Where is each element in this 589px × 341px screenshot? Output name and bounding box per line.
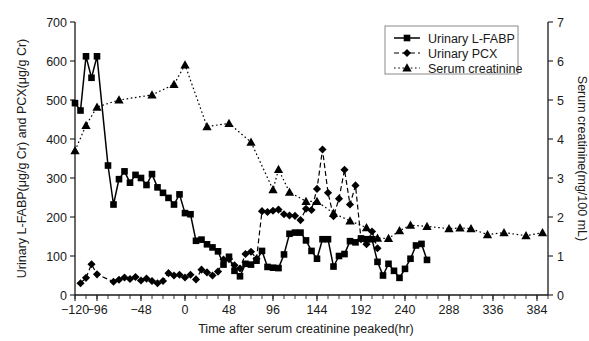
marker-square — [72, 100, 79, 107]
marker-triangle — [406, 221, 415, 229]
right-y-tick-label: 5 — [557, 94, 564, 108]
left-y-tick-label: 200 — [46, 211, 67, 225]
marker-triangle — [345, 216, 354, 224]
marker-square — [385, 261, 392, 268]
left-y-tick-label: 400 — [46, 133, 67, 147]
marker-square — [297, 229, 304, 236]
marker-diamond — [93, 270, 101, 278]
legend-label-1[interactable]: Urinary PCX — [428, 47, 498, 61]
marker-square — [83, 53, 90, 60]
marker-square — [165, 195, 172, 202]
marker-square — [94, 53, 101, 60]
marker-diamond — [192, 275, 200, 283]
marker-triangle — [147, 90, 156, 98]
marker-triangle — [70, 146, 79, 154]
serum-creatinine-timecourse-chart: 010020030040050060070001234567−120−96−48… — [0, 0, 589, 341]
marker-triangle — [362, 223, 371, 231]
marker-square — [149, 171, 156, 178]
marker-triangle — [422, 222, 431, 230]
marker-square — [143, 182, 150, 189]
marker-triangle — [329, 208, 338, 216]
legend[interactable]: Urinary L-FABPUrinary PCXSerum creatinin… — [385, 26, 523, 76]
x-tick-label: 384 — [527, 303, 548, 317]
marker-triangle — [499, 228, 508, 236]
marker-triangle — [285, 187, 294, 195]
marker-square — [275, 265, 282, 272]
marker-triangle — [81, 121, 90, 129]
left-y-tick-label: 600 — [46, 55, 67, 69]
right-y-tick-label: 0 — [557, 289, 564, 303]
marker-square — [116, 176, 123, 183]
marker-diamond — [346, 200, 354, 208]
x-tick-label: 0 — [182, 303, 189, 317]
marker-square — [404, 35, 411, 42]
right-y-tick-label: 7 — [557, 16, 564, 30]
marker-square — [77, 107, 84, 114]
marker-triangle — [455, 223, 464, 231]
marker-square — [259, 248, 266, 255]
figure-container: 010020030040050060070001234567−120−96−48… — [0, 0, 589, 341]
marker-square — [176, 191, 183, 198]
right-y-tick-label: 6 — [557, 55, 564, 69]
marker-triangle — [169, 80, 178, 88]
x-tick-label: 96 — [266, 303, 280, 317]
x-tick-label: 192 — [351, 303, 372, 317]
right-y-tick-label: 4 — [557, 133, 564, 147]
marker-triangle — [202, 122, 211, 130]
marker-square — [171, 201, 178, 208]
marker-triangle — [268, 185, 277, 193]
marker-diamond — [274, 206, 282, 214]
marker-square — [187, 211, 194, 218]
x-tick-label: −96 — [86, 303, 107, 317]
legend-label-2[interactable]: Serum creatinine — [428, 62, 523, 76]
marker-square — [237, 273, 244, 280]
marker-square — [215, 248, 222, 255]
marker-square — [341, 251, 348, 258]
marker-triangle — [224, 119, 233, 127]
marker-square — [391, 268, 398, 275]
right-y-axis-title: Serum creatinine(mg/100 mL) — [575, 76, 589, 241]
marker-triangle — [483, 230, 492, 238]
marker-square — [380, 272, 387, 279]
marker-square — [330, 263, 337, 270]
right-y-tick-label: 1 — [557, 250, 564, 264]
marker-diamond — [324, 189, 332, 197]
marker-square — [127, 179, 134, 186]
marker-triangle — [538, 228, 547, 236]
marker-square — [110, 201, 117, 208]
marker-square — [88, 74, 95, 81]
marker-square — [402, 266, 409, 273]
left-y-tick-label: 0 — [60, 289, 67, 303]
marker-triangle — [92, 102, 101, 110]
left-y-axis-title: Urinary L-FABP(μg/g Cr) and PCX(μg/g Cr) — [15, 39, 29, 278]
series-serum-creatinine — [70, 60, 547, 242]
left-y-tick-label: 500 — [46, 94, 67, 108]
x-axis-title: Time after serum creatinine peaked(hr) — [198, 322, 414, 336]
x-tick-label: −120 — [61, 303, 89, 317]
marker-triangle — [274, 165, 283, 173]
marker-square — [303, 237, 310, 244]
marker-diamond — [296, 216, 304, 224]
marker-square — [121, 168, 128, 175]
marker-square — [325, 236, 332, 243]
marker-triangle — [384, 234, 393, 242]
marker-triangle — [114, 95, 123, 103]
marker-diamond — [351, 181, 359, 189]
right-y-tick-label: 3 — [557, 172, 564, 186]
marker-diamond — [318, 145, 326, 153]
left-y-tick-label: 700 — [46, 16, 67, 30]
left-y-tick-label: 100 — [46, 250, 67, 264]
marker-square — [281, 251, 288, 258]
x-tick-label: 144 — [307, 303, 328, 317]
marker-square — [418, 241, 425, 248]
marker-diamond — [340, 166, 348, 174]
left-y-tick-label: 300 — [46, 172, 67, 186]
series-line — [75, 56, 427, 278]
legend-label-0[interactable]: Urinary L-FABP — [428, 32, 515, 46]
x-tick-label: 288 — [439, 303, 460, 317]
marker-square — [396, 275, 403, 282]
marker-square — [138, 175, 145, 182]
marker-diamond — [313, 185, 321, 193]
marker-square — [314, 255, 321, 262]
x-tick-label: −48 — [130, 303, 151, 317]
